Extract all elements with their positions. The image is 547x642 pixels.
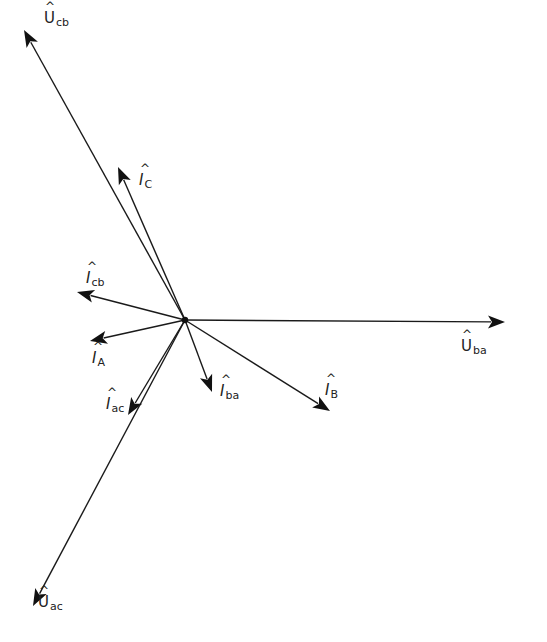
vector-i-b-line (185, 320, 318, 404)
hat-mark: ^ (221, 374, 231, 386)
vector-u-ac-line (40, 320, 185, 594)
vector-i-ac-line (135, 320, 185, 403)
hat-mark: ^ (326, 373, 336, 385)
label-i-a: I^A (92, 350, 105, 366)
hat-mark: ^ (87, 261, 97, 273)
phasor-vectors (24, 30, 505, 606)
label-i-a-subscript: A (97, 356, 105, 369)
hat-mark: ^ (93, 341, 103, 353)
label-i-ba-subscript: ba (225, 389, 239, 402)
arrowhead-icon (24, 30, 38, 48)
label-u-ba-subscript: ba (473, 344, 487, 357)
vector-i-cb-line (91, 296, 185, 320)
label-u-ac-subscript: ac (50, 600, 63, 613)
label-u-cb-subscript: cb (56, 16, 69, 29)
label-i-c-subscript: C (144, 178, 152, 191)
hat-mark: ^ (39, 585, 49, 597)
hat-mark: ^ (462, 329, 472, 341)
label-i-cb-subscript: cb (91, 276, 104, 289)
label-u-cb: U^cb (44, 10, 69, 26)
label-i-c: I^C (139, 172, 152, 188)
hat-mark: ^ (140, 163, 150, 175)
label-u-ba: U^ba (461, 338, 487, 354)
vector-i-ba-line (185, 320, 207, 379)
label-i-ba: I^ba (220, 383, 239, 399)
vector-i-c-line (124, 180, 185, 320)
label-i-b-subscript: B (330, 388, 338, 401)
origin-point (182, 317, 188, 323)
label-i-ac-subscript: ac (111, 402, 124, 415)
phasor-diagram (0, 0, 547, 642)
label-u-ac: U^ac (38, 594, 63, 610)
hat-mark: ^ (107, 387, 117, 399)
label-i-ac: I^ac (106, 396, 124, 412)
label-i-cb: I^cb (86, 270, 104, 286)
vector-i-a-line (104, 320, 185, 338)
label-i-b: I^B (325, 382, 338, 398)
hat-mark: ^ (45, 1, 55, 13)
vector-u-ba-line (185, 320, 491, 322)
vector-u-cb-line (31, 42, 185, 320)
